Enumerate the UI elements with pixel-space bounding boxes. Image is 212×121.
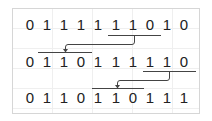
arrow-2 xyxy=(92,72,196,89)
connector xyxy=(66,36,135,51)
arrowhead-icon xyxy=(63,49,68,53)
arrowhead-icon xyxy=(115,85,120,89)
arrow-1 xyxy=(38,36,161,53)
arrow-overlay xyxy=(0,0,212,121)
connector xyxy=(118,72,170,87)
